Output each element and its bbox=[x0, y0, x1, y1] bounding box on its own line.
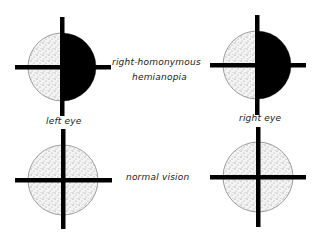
left-eye-label: left eye bbox=[46, 116, 82, 126]
condition-label-top: right-homonymous bbox=[112, 57, 201, 67]
horizontal-meridian bbox=[210, 175, 306, 180]
top-left-eye-field bbox=[15, 17, 111, 116]
top-right-eye-field bbox=[210, 15, 306, 115]
bottom-left-eye-field bbox=[15, 129, 112, 229]
condition-label-top-line2: hemianopia bbox=[132, 72, 187, 82]
bottom-right-eye-field bbox=[210, 127, 306, 227]
right-eye-label: right eye bbox=[239, 113, 281, 123]
horizontal-meridian bbox=[15, 178, 112, 183]
horizontal-meridian bbox=[15, 65, 111, 70]
horizontal-meridian bbox=[210, 63, 306, 68]
condition-label-bottom: normal vision bbox=[126, 172, 189, 182]
